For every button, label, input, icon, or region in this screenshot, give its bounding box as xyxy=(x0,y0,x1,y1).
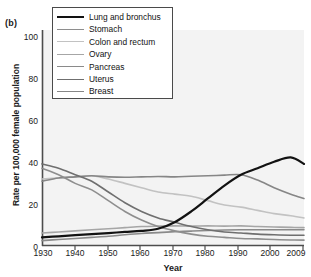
legend-label-lung-and-bronchus: Lung and bronchus xyxy=(89,13,161,21)
legend-item-colon-and-rectum: Colon and rectum xyxy=(57,36,168,48)
legend-swatch-uterus xyxy=(57,79,84,80)
legend-swatch-stomach xyxy=(57,29,84,30)
chart-legend: Lung and bronchus Stomach Colon and rect… xyxy=(52,7,173,99)
legend-swatch-lung-and-bronchus xyxy=(57,16,84,18)
x-axis-ticks xyxy=(75,246,303,250)
legend-label-ovary: Ovary xyxy=(89,50,111,58)
legend-item-lung-and-bronchus: Lung and bronchus xyxy=(57,11,168,23)
legend-item-stomach: Stomach xyxy=(57,23,168,35)
legend-item-ovary: Ovary xyxy=(57,48,168,60)
legend-item-uterus: Uterus xyxy=(57,73,168,85)
legend-swatch-pancreas xyxy=(57,66,84,67)
legend-label-stomach: Stomach xyxy=(89,25,122,33)
legend-item-breast: Breast xyxy=(57,85,168,97)
legend-label-pancreas: Pancreas xyxy=(89,63,124,71)
legend-item-pancreas: Pancreas xyxy=(57,61,168,73)
legend-label-colon-and-rectum: Colon and rectum xyxy=(89,38,155,46)
legend-label-breast: Breast xyxy=(89,87,113,95)
legend-swatch-ovary xyxy=(57,54,84,55)
legend-swatch-colon-and-rectum xyxy=(57,41,84,42)
legend-swatch-breast xyxy=(57,91,84,92)
legend-label-uterus: Uterus xyxy=(89,75,114,83)
